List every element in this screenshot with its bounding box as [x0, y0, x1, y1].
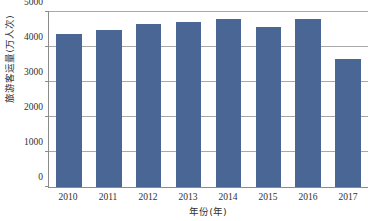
y-axis-tick-label: 0	[38, 172, 43, 182]
x-axis-tick-label: 2010	[48, 190, 88, 204]
bar-slot	[328, 12, 368, 187]
bar-slot	[89, 12, 129, 187]
bar-slot	[248, 12, 288, 187]
x-axis-tick-label: 2012	[128, 190, 168, 204]
bar-2014	[216, 19, 242, 187]
bar-2013	[176, 22, 202, 187]
x-axis-title: 年份(年)	[48, 204, 368, 218]
y-axis-tick-label: 3000	[24, 67, 43, 77]
bar-slot	[169, 12, 209, 187]
x-axis-tick-label: 2013	[168, 190, 208, 204]
bar-2011	[96, 30, 122, 187]
x-axis-tick-label: 2016	[288, 190, 328, 204]
x-axis-tick-label: 2015	[248, 190, 288, 204]
plot-area: 010002000300040005000	[48, 12, 368, 188]
bar-2015	[256, 27, 282, 187]
y-axis-tick-label: 1000	[24, 137, 43, 147]
bar-slot	[49, 12, 89, 187]
bar-slot	[129, 12, 169, 187]
x-axis-tick-label: 2011	[88, 190, 128, 204]
bar-chart: 旅游客运量(万人次) 010002000300040005000 2010201…	[0, 0, 373, 221]
x-axis-tick-labels: 20102011201220132014201520162017	[48, 190, 368, 204]
bar-slot	[209, 12, 249, 187]
bar-series	[49, 12, 368, 187]
bar-2016	[295, 19, 321, 187]
bar-slot	[288, 12, 328, 187]
x-axis-tick-label: 2014	[208, 190, 248, 204]
bar-2017	[335, 59, 361, 187]
bar-2010	[56, 34, 82, 187]
bar-2012	[136, 24, 162, 187]
y-axis-tick-label: 5000	[24, 0, 43, 7]
y-axis-title: 旅游客运量(万人次)	[3, 0, 17, 125]
y-axis-tick-label: 4000	[24, 32, 43, 42]
x-axis-tick-label: 2017	[328, 190, 368, 204]
y-axis-tick-label: 2000	[24, 102, 43, 112]
